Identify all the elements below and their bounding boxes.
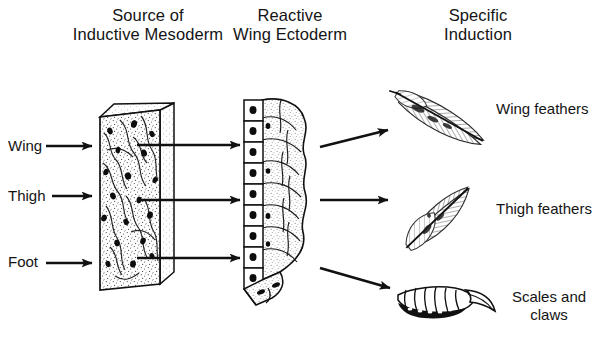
wing-induction-arrow — [320, 130, 388, 147]
foot-induction-arrow — [320, 268, 390, 288]
ectoderm-epithelial-nuclei — [250, 106, 257, 282]
inductive-mesoderm-slab — [100, 103, 174, 290]
long-pennaceous-feather-icon — [384, 78, 487, 154]
diagram-artwork — [0, 0, 610, 339]
reactive-wing-ectoderm-block — [244, 99, 306, 305]
short-downy-feather-icon — [397, 181, 479, 255]
scaly-toe-claw-icon — [398, 287, 495, 319]
induction-diagram: Source of Inductive Mesoderm Reactive Wi… — [0, 0, 610, 339]
